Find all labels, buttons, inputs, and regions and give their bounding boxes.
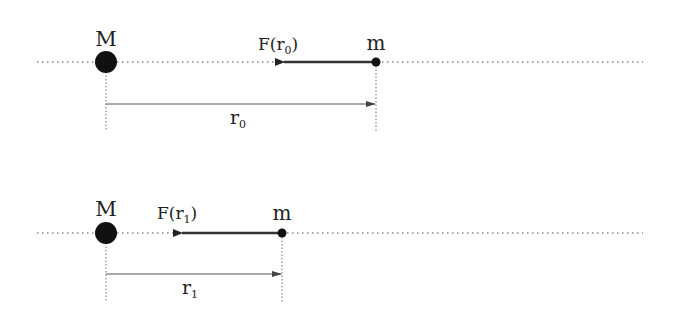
gravity-force-diagram: M m F(r0) r0 M m F(r1) r1 xyxy=(0,0,675,322)
force-label: F(r0) xyxy=(258,34,298,57)
big-mass-label: M xyxy=(95,197,117,221)
big-mass-circle xyxy=(95,222,117,244)
big-mass-circle xyxy=(95,51,117,73)
panel-r0: M m F(r0) r0 xyxy=(37,27,643,131)
big-mass-label: M xyxy=(95,27,117,51)
small-mass-dot xyxy=(372,58,381,67)
distance-label: r0 xyxy=(230,106,246,131)
small-mass-label: m xyxy=(367,31,386,55)
distance-label: r1 xyxy=(182,276,198,301)
small-mass-dot xyxy=(278,229,287,238)
small-mass-label: m xyxy=(273,201,292,225)
panel-r1: M m F(r1) r1 xyxy=(37,197,643,302)
force-label: F(r1) xyxy=(157,203,197,226)
